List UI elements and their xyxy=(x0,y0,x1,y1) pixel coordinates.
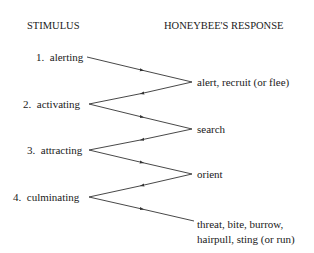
arrow-activating-to-search xyxy=(89,104,192,129)
flow-arrows xyxy=(0,0,314,253)
arrow-culminating-to-threat xyxy=(89,197,194,221)
arrow-alert-to-activating xyxy=(89,82,192,104)
arrow-search-to-attracting xyxy=(89,129,192,150)
arrow-alerting-to-alert xyxy=(87,57,192,82)
arrow-orient-to-culminating xyxy=(89,174,192,197)
arrow-attracting-to-orient xyxy=(89,150,192,174)
